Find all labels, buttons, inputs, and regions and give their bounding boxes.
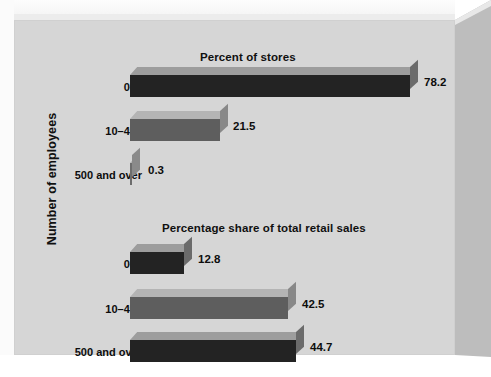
group-title-retail-sales: Percentage share of total retail sales <box>162 222 366 234</box>
bar-front-face <box>130 340 296 362</box>
panel-right-bevel <box>455 0 491 377</box>
bar-top-face <box>130 332 303 340</box>
bar-front-face <box>130 252 184 274</box>
chart-figure: Number of employees Percent of stores 0–… <box>0 0 491 377</box>
bar-side-face <box>220 104 228 133</box>
value-label-0-3: 0.3 <box>148 164 164 176</box>
bar-front-face <box>130 119 220 141</box>
value-label-42-5: 42.5 <box>302 298 324 310</box>
bar-sales-0-9 <box>130 244 184 266</box>
value-label-12-8: 12.8 <box>198 253 220 265</box>
panel-left-bevel <box>0 0 14 377</box>
bar-stores-500-and-over <box>130 155 132 177</box>
panel-right-face-icon <box>455 0 491 377</box>
bar-top-face <box>130 111 227 119</box>
bar-sales-10-499 <box>130 289 288 311</box>
bar-top-face <box>130 67 417 75</box>
bar-side-face <box>296 325 304 354</box>
chart-panel: Number of employees Percent of stores 0–… <box>14 20 455 355</box>
value-label-78-2: 78.2 <box>424 76 446 88</box>
y-axis-title: Number of employees <box>45 79 59 279</box>
bar-stores-10-499 <box>130 111 220 133</box>
value-label-21-5: 21.5 <box>233 120 255 132</box>
bar-front-face <box>130 75 410 97</box>
value-label-44-7: 44.7 <box>310 341 332 353</box>
bar-stores-0-9 <box>130 67 410 89</box>
bar-side-face <box>288 282 296 311</box>
bar-side-face <box>410 60 418 89</box>
bar-side-face <box>184 237 192 266</box>
bar-top-face <box>130 289 295 297</box>
group-title-stores: Percent of stores <box>200 51 296 63</box>
bar-front-face <box>130 297 288 319</box>
bar-top-face <box>130 244 191 252</box>
bar-sales-500-and-over <box>130 332 296 354</box>
